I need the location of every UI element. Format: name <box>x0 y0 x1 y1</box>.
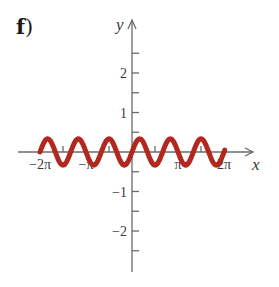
y-axis-label: y <box>114 15 124 34</box>
y-tick-label: −2 <box>112 224 127 239</box>
y-tick-label: 1 <box>120 106 127 121</box>
y-tick-label: −1 <box>112 185 127 200</box>
x-axis-label: x <box>251 155 260 174</box>
function-plot: −2π−ππ2π21−1−2 x y <box>0 0 279 287</box>
x-tick-label: −2π <box>29 157 51 172</box>
y-tick-label: 2 <box>120 66 127 81</box>
